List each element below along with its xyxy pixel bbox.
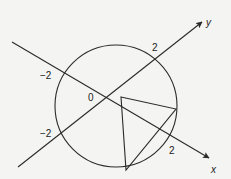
y-pos-label: 2	[152, 42, 158, 53]
origin-label: 0	[88, 92, 94, 103]
x-axis	[12, 42, 209, 158]
y-axis-label: y	[205, 17, 212, 28]
x-pos-label: 2	[169, 145, 175, 156]
x-neg-label: −2	[40, 70, 52, 81]
x-axis-label: x	[210, 164, 217, 175]
coordinate-diagram: y x 0 2 −2 −2 2	[0, 0, 231, 179]
circle	[55, 45, 177, 167]
y-neg-label: −2	[40, 128, 52, 139]
